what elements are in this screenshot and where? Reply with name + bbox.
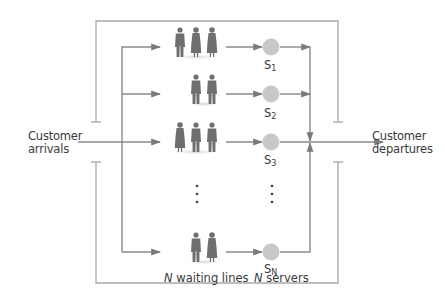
person-icon [175, 27, 185, 57]
departures-label: Customer departures [372, 130, 433, 156]
waiting-line-1 [168, 27, 224, 60]
arrivals-label: Customer arrivals [28, 130, 82, 156]
person-icon [191, 122, 201, 152]
ellipsis-dots [196, 185, 274, 204]
server-n [263, 244, 280, 261]
server-label-3: S3 [264, 153, 276, 168]
server-label-2: S2 [264, 106, 276, 121]
person-icon [175, 122, 185, 152]
person-icon [191, 74, 201, 104]
person-icon [207, 27, 217, 57]
arrivals-label-line2: arrivals [28, 143, 82, 156]
servers-caption: N servers [254, 271, 309, 285]
departures-label-line2: departures [372, 143, 433, 156]
person-icon [191, 27, 201, 57]
waiting-line-n [184, 232, 224, 265]
person-icon [207, 232, 217, 262]
person-icon [207, 122, 217, 152]
person-icon [191, 232, 201, 262]
waiting-line-2 [184, 74, 224, 107]
queue-to-server-arrows [226, 47, 262, 252]
arrival-flow [78, 47, 160, 252]
server-label-1: S1 [264, 58, 276, 73]
server-2 [263, 86, 280, 103]
server-to-exit-arrows [280, 47, 383, 252]
server-1 [263, 39, 280, 56]
waiting-lines-caption: N waiting lines [164, 271, 249, 285]
person-icon [207, 74, 217, 104]
waiting-line-3 [168, 122, 224, 155]
server-3 [263, 134, 280, 151]
